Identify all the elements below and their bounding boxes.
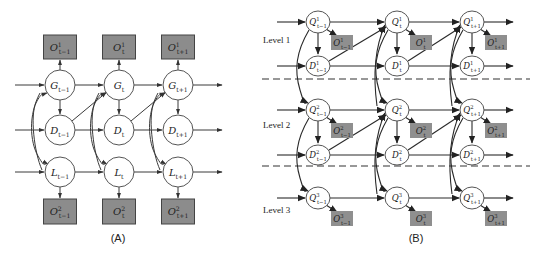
observation-arrow (405, 205, 416, 212)
observation-arrow (326, 29, 337, 36)
level-label: Level 1 (263, 35, 290, 45)
observation-arrow (480, 29, 491, 36)
observation-arrow (326, 117, 337, 124)
observation-arrow (405, 29, 416, 36)
level-label: Level 2 (263, 120, 290, 130)
diagonal-arrow (131, 93, 165, 122)
observation-arrow (480, 205, 491, 212)
observation-label: O2t (416, 125, 427, 137)
diagonal-arrow (72, 93, 106, 122)
observation-label: O1t (416, 37, 427, 49)
node-label: Q3t (392, 192, 403, 204)
node-label: Q1t (392, 16, 403, 28)
panel-b-caption: (B) (409, 232, 424, 244)
node-label: D2t (391, 149, 403, 161)
state-node-l (45, 157, 75, 187)
node-label: Q2t (392, 104, 403, 116)
panel-a-graph: O1t−1O2t−1Gt−1Dt−1Lt−1O1tO2tGtDtLtO1t+1O… (15, 35, 222, 224)
state-node-l (163, 157, 193, 187)
node-label: D1t (391, 60, 403, 72)
panel-b-graph: Level 1O1t−1Q1t−1D1t−1O1tQ1tD1tO1t+1Q1t+… (262, 11, 530, 226)
observation-arrow (480, 117, 491, 124)
observation-arrow (405, 117, 416, 124)
panel-a-caption: (A) (111, 232, 126, 244)
hierarchical-model-figure: O1t−1O2t−1Gt−1Dt−1Lt−1O1tO2tGtDtLtO1t+1O… (0, 0, 540, 257)
observation-arrow (326, 205, 337, 212)
observation-label: O3t (416, 213, 427, 225)
level-label: Level 3 (263, 205, 291, 215)
